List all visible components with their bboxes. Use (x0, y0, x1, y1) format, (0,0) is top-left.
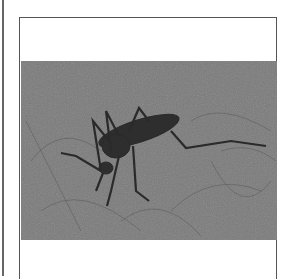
mosquito-photo (21, 61, 277, 240)
page-margin-rule (2, 0, 4, 276)
figure-frame (19, 17, 277, 279)
mosquito-illustration (21, 61, 277, 240)
